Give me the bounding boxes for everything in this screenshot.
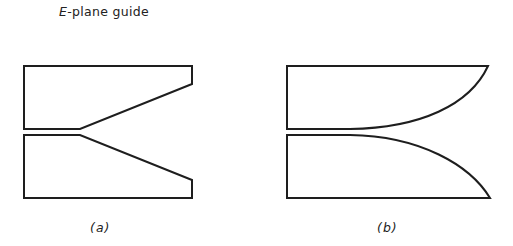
figure-a-linear-taper [24, 66, 192, 198]
figure-a-upper-plate [24, 66, 192, 129]
figure-b-lower-plate [287, 135, 490, 198]
figure-a-lower-plate [24, 135, 192, 198]
diagram-canvas [0, 0, 513, 246]
figure-a-caption: (a) [90, 220, 110, 235]
figure-b-upper-plate [287, 66, 488, 129]
figure-b-curved-flare [287, 66, 490, 198]
figure-b-caption: (b) [377, 220, 398, 235]
